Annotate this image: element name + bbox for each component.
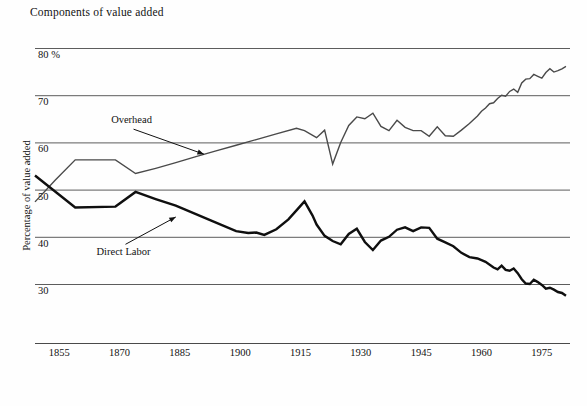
x-tick-label: 1855 [49, 347, 70, 358]
x-tick-label: 1900 [230, 347, 251, 358]
annotation-arrow-line [125, 217, 175, 244]
annotation-label: Overhead [111, 114, 152, 125]
y-tick-label: 60 [38, 143, 49, 154]
series-line-overhead [35, 66, 566, 201]
annotation-arrows [125, 129, 203, 244]
x-tick-label: 1930 [350, 347, 371, 358]
annotation-arrow-line [134, 129, 204, 154]
annotation-label: Direct Labor [97, 246, 151, 257]
chart-plot-area [0, 0, 587, 406]
x-tick-label: 1975 [531, 347, 552, 358]
annotation-arrow-head [197, 150, 204, 155]
x-tick-label: 1960 [471, 347, 492, 358]
y-tick-label: 40 [38, 238, 49, 249]
x-tick-label: 1870 [109, 347, 130, 358]
y-tick-label: 80 % [38, 49, 60, 60]
y-tick-label: 50 [38, 191, 49, 202]
x-tick-label: 1945 [411, 347, 432, 358]
x-tick-label: 1915 [290, 347, 311, 358]
y-tick-label: 70 [38, 96, 49, 107]
annotation-arrow-head [169, 217, 176, 222]
y-tick-label: 30 [38, 285, 49, 296]
chart-container: Components of value added Percentage of … [0, 0, 587, 406]
series-line-direct-labor [35, 175, 566, 295]
x-tick-label: 1885 [169, 347, 190, 358]
data-series-layer [35, 66, 566, 295]
